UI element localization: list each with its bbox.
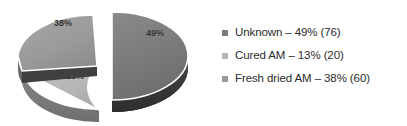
pie-chart: 49% 38% 13% Unknown – 49% (76) Cured AM … <box>0 0 407 126</box>
legend-item-fresh-dried-am[interactable]: Fresh dried AM – 38% (60) <box>222 67 407 90</box>
chart-legend: Unknown – 49% (76) Cured AM – 13% (20) F… <box>222 21 407 90</box>
legend-label-fresh-dried-am: Fresh dried AM – 38% (60) <box>235 73 370 85</box>
pie-graphic: 49% 38% 13% <box>0 0 210 126</box>
pie-svg <box>0 0 210 126</box>
slice-label-cured-am: 13% <box>66 71 84 81</box>
legend-item-cured-am[interactable]: Cured AM – 13% (20) <box>222 44 407 67</box>
legend-marker-fresh-dried-am-icon <box>222 76 228 82</box>
legend-item-unknown[interactable]: Unknown – 49% (76) <box>222 21 407 44</box>
legend-label-cured-am: Cured AM – 13% (20) <box>235 50 344 62</box>
legend-marker-unknown-icon <box>222 30 228 36</box>
slice-unknown <box>112 12 188 112</box>
legend-label-unknown: Unknown – 49% (76) <box>235 27 341 39</box>
slice-label-unknown: 49% <box>146 28 164 38</box>
legend-marker-cured-am-icon <box>222 53 228 59</box>
slice-label-fresh-dried-am: 38% <box>54 18 72 28</box>
